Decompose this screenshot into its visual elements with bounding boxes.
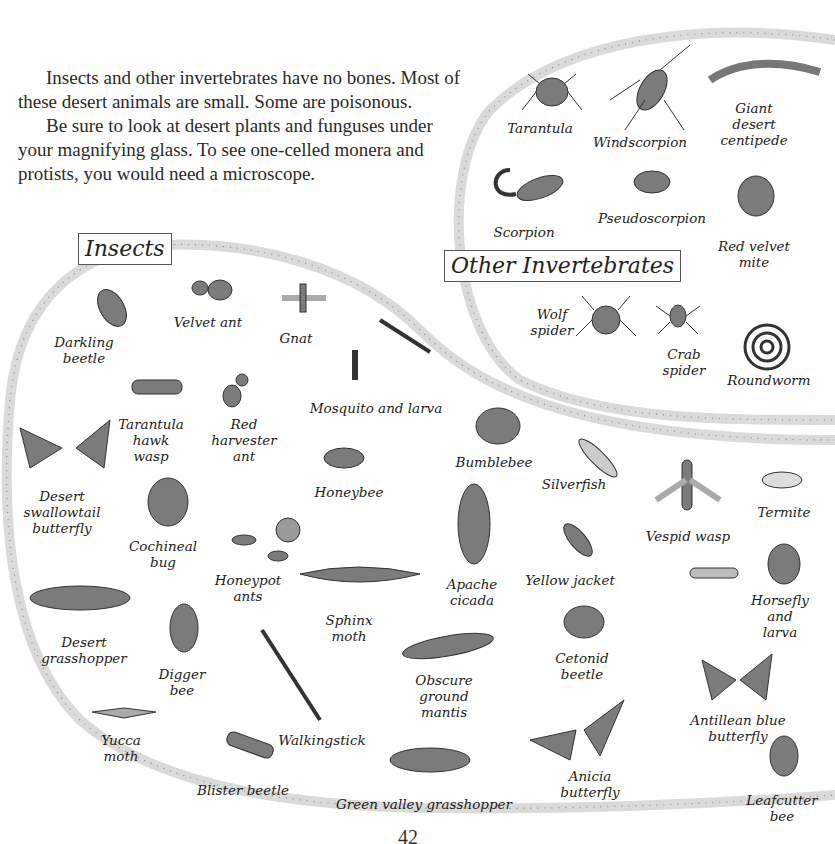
tarantula-hawk-wasp-icon (132, 380, 182, 394)
label-honeybee: Honeybee (315, 484, 384, 500)
label-yucca-moth: Yucca moth (101, 732, 141, 764)
gnat-icon (282, 284, 326, 312)
label-anicia-butterfly: Anicia butterfly (560, 768, 619, 800)
label-wolf-spider: Wolf spider (531, 306, 574, 338)
label-crab-spider: Crab spider (663, 346, 706, 378)
cetonid-beetle-icon (564, 606, 604, 638)
antillean-blue-butterfly-icon (702, 654, 772, 700)
anicia-butterfly-icon (530, 700, 624, 760)
label-bumblebee: Bumblebee (456, 454, 533, 470)
label-roundworm: Roundworm (727, 372, 810, 388)
termite-icon (762, 472, 802, 488)
bumblebee-icon (476, 408, 520, 444)
digger-bee-icon (170, 604, 198, 652)
apache-cicada-icon (458, 484, 490, 564)
horsefly-larva-icon (690, 544, 800, 584)
label-antillean-blue-butterfly: Antillean blue butterfly (690, 712, 786, 744)
honeybee-icon (324, 448, 364, 468)
crab-spider-icon (656, 305, 700, 334)
label-green-valley-grasshopper: Green valley grasshopper (336, 796, 512, 812)
label-leafcutter-bee: Leafcutter bee (746, 792, 818, 824)
yellow-jacket-icon (559, 520, 597, 561)
silverfish-icon (575, 435, 622, 482)
label-giant-desert-centipede: Giant desert centipede (720, 100, 787, 148)
centipede-icon (710, 64, 820, 80)
page-number: 42 (398, 826, 418, 844)
label-obscure-ground-mantis: Obscure ground mantis (415, 672, 472, 720)
label-cochineal-bug: Cochineal bug (129, 538, 197, 570)
label-cetonid-beetle: Cetonid beetle (555, 650, 609, 682)
scorpion-icon (496, 170, 566, 206)
label-digger-bee: Digger bee (159, 666, 206, 698)
label-desert-swallowtail-butterfly: Desert swallowtail butterfly (24, 488, 101, 536)
cochineal-bug-icon (148, 478, 188, 526)
label-blister-beetle: Blister beetle (197, 782, 289, 798)
label-tarantula: Tarantula (507, 120, 573, 136)
darkling-beetle-icon (92, 285, 133, 332)
wolf-spider-icon (576, 296, 636, 336)
label-yellow-jacket: Yellow jacket (525, 572, 615, 588)
green-valley-grasshopper-icon (390, 748, 470, 772)
yucca-moth-icon (92, 708, 156, 718)
label-windscorpion: Windscorpion (593, 134, 687, 150)
label-scorpion: Scorpion (493, 224, 554, 240)
label-darkling-beetle: Darkling beetle (54, 334, 113, 366)
label-silverfish: Silverfish (542, 476, 607, 492)
windscorpion-icon (610, 45, 690, 130)
sphinx-moth-icon (300, 567, 420, 582)
red-harvester-ant-icon (223, 374, 248, 407)
label-walkingstick: Walkingstick (278, 732, 365, 748)
pseudoscorpion-icon (634, 171, 670, 193)
label-desert-grasshopper: Desert grasshopper (41, 634, 127, 666)
tarantula-icon (522, 74, 582, 110)
label-vespid-wasp: Vespid wasp (646, 528, 731, 544)
red-velvet-mite-icon (738, 176, 774, 216)
label-horsefly-and-larva: Horsefly and larva (751, 592, 809, 640)
label-pseudoscorpion: Pseudoscorpion (598, 210, 706, 226)
label-mosquito-and-larva: Mosquito and larva (310, 400, 443, 416)
label-velvet-ant: Velvet ant (174, 314, 242, 330)
roundworm-icon (745, 325, 789, 369)
mosquito-icon (355, 320, 430, 380)
walkingstick-icon (262, 630, 320, 720)
label-red-velvet-mite: Red velvet mite (718, 238, 790, 270)
swallowtail-butterfly-icon (20, 420, 110, 468)
label-tarantula-hawk-wasp: Tarantula hawk wasp (118, 416, 184, 464)
vespid-wasp-icon (656, 460, 720, 510)
desert-grasshopper-icon (30, 586, 130, 610)
label-red-harvester-ant: Red harvester ant (211, 416, 277, 464)
label-apache-cicada: Apache cicada (447, 576, 498, 608)
blister-beetle-icon (225, 730, 275, 760)
label-sphinx-moth: Sphinx moth (325, 612, 372, 644)
label-termite: Termite (758, 504, 811, 520)
velvet-ant-icon (192, 280, 232, 300)
mantis-icon (401, 628, 495, 664)
label-gnat: Gnat (280, 330, 313, 346)
honeypot-ants-icon (232, 518, 300, 561)
label-honeypot-ants: Honeypot ants (215, 572, 281, 604)
